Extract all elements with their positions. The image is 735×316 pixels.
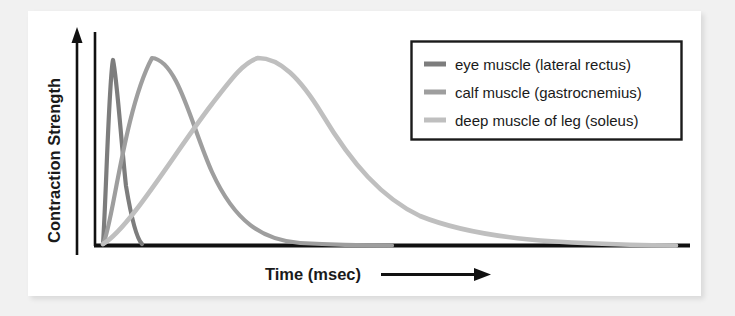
legend-item-calf-muscle[interactable]: calf muscle (gastrocnemius) <box>424 84 642 101</box>
legend-label-soleus-muscle: deep muscle of leg (soleus) <box>455 112 638 129</box>
y-axis-arrow-icon <box>72 27 83 255</box>
legend-item-soleus-muscle[interactable]: deep muscle of leg (soleus) <box>424 112 638 129</box>
x-axis-title-arrow-icon <box>381 268 491 281</box>
y-axis-title: Contraction Strength <box>45 78 63 243</box>
legend-label-eye-muscle: eye muscle (lateral rectus) <box>455 56 631 73</box>
legend-item-eye-muscle[interactable]: eye muscle (lateral rectus) <box>424 56 631 73</box>
figure-root: Contraction Strength Time (msec) eye mus… <box>0 0 735 316</box>
contraction-strength-chart: Contraction Strength Time (msec) eye mus… <box>0 0 735 316</box>
legend-label-calf-muscle: calf muscle (gastrocnemius) <box>455 84 642 101</box>
x-axis-title: Time (msec) <box>265 265 361 283</box>
